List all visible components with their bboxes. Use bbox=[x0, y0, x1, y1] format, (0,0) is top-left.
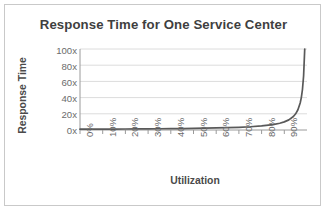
x-tick-label: 10% bbox=[107, 118, 118, 137]
x-tick-label: 40% bbox=[175, 118, 186, 137]
y-tick-label: 20x bbox=[43, 110, 77, 120]
x-tick-label: 20% bbox=[129, 118, 140, 137]
y-tick-label: 0x bbox=[43, 126, 77, 136]
y-tick-label: 60x bbox=[43, 78, 77, 88]
gridlines bbox=[80, 49, 307, 114]
x-tick-label: 60% bbox=[220, 118, 231, 137]
x-tick-label: 80% bbox=[266, 118, 277, 137]
y-tick-label: 40x bbox=[43, 94, 77, 104]
x-tick-label: 30% bbox=[152, 118, 163, 137]
x-axis-title: Utilization bbox=[75, 175, 315, 186]
y-tick-label: 100x bbox=[43, 46, 77, 56]
x-tick-label: 0% bbox=[84, 123, 95, 137]
chart-frame: Response Time for One Service Center Res… bbox=[4, 4, 321, 206]
x-tick-label: 90% bbox=[288, 118, 299, 137]
y-axis-title: Response Time bbox=[17, 41, 28, 151]
y-tick-label: 80x bbox=[43, 62, 77, 72]
x-axis-tick-labels: 0%10%20%30%40%50%60%70%80%90% bbox=[80, 133, 310, 173]
x-tick-label: 70% bbox=[243, 118, 254, 137]
x-tick-label: 50% bbox=[198, 118, 209, 137]
y-axis-tick-labels: 100x 80x 60x 40x 20x 0x bbox=[39, 5, 77, 212]
